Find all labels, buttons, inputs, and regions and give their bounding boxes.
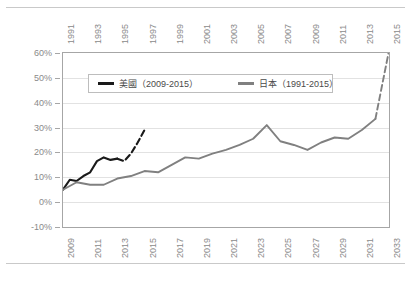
y-axis-tick-label: 20% bbox=[34, 148, 52, 157]
y-axis-tick-label: 0% bbox=[39, 198, 52, 207]
x-axis-tick-label: 2013 bbox=[121, 238, 130, 258]
x-axis-tick-label: 2023 bbox=[257, 238, 266, 258]
y-axis-tick-label: 40% bbox=[34, 98, 52, 107]
x-axis-tick-label: 2007 bbox=[284, 24, 293, 44]
x-axis-tick-label: 2019 bbox=[203, 238, 212, 258]
legend-label-japan: 日本（1991-2015） bbox=[259, 79, 338, 89]
x-axis-tick-label: 2001 bbox=[203, 24, 212, 44]
x-axis-tick-label: 2029 bbox=[339, 238, 348, 258]
y-axis-tick-label: 30% bbox=[34, 123, 52, 132]
y-axis-tick-mark bbox=[55, 177, 60, 178]
y-axis-tick-label: 10% bbox=[34, 173, 52, 182]
x-axis-tick-label: 1995 bbox=[121, 24, 130, 44]
legend-item-us: 美國（2009-2015） bbox=[98, 79, 198, 89]
x-axis-tick-label: 2021 bbox=[230, 238, 239, 258]
x-axis-tick-label: 2017 bbox=[176, 238, 185, 258]
x-axis-tick-label: 2033 bbox=[393, 238, 402, 258]
x-axis-tick-label: 2009 bbox=[67, 238, 76, 258]
x-axis-tick-label: 2005 bbox=[257, 24, 266, 44]
y-axis-tick-mark bbox=[55, 128, 60, 129]
y-axis-tick-mark bbox=[55, 152, 60, 153]
x-axis-tick-label: 1997 bbox=[149, 24, 158, 44]
series-line-japan-actual bbox=[63, 119, 375, 190]
bottom-x-axis: 2009201120132015201720192021202320252027… bbox=[0, 228, 411, 282]
y-axis-tick-mark bbox=[55, 53, 60, 54]
x-axis-tick-label: 2025 bbox=[284, 238, 293, 258]
x-axis-tick-label: 2013 bbox=[366, 24, 375, 44]
y-axis: 60%50%40%30%20%10%0%-10% bbox=[0, 52, 60, 228]
series-line-japan-projected bbox=[375, 53, 389, 119]
x-axis-tick-label: 2011 bbox=[94, 239, 103, 258]
y-axis-tick-mark bbox=[55, 202, 60, 203]
y-axis-tick-label: 60% bbox=[34, 49, 52, 58]
x-axis-tick-label: 1993 bbox=[94, 24, 103, 44]
y-axis-tick-mark bbox=[55, 78, 60, 79]
x-axis-tick-label: 2031 bbox=[366, 238, 375, 258]
x-axis-tick-label: 2015 bbox=[149, 238, 158, 258]
x-axis-tick-label: 2011 bbox=[339, 25, 348, 44]
chart-figure: 1991199319951997199920012003200520072009… bbox=[0, 0, 411, 282]
y-axis-tick-mark bbox=[55, 103, 60, 104]
legend-item-japan: 日本（1991-2015） bbox=[238, 79, 338, 89]
x-axis-tick-label: 2015 bbox=[393, 24, 402, 44]
x-axis-tick-label: 2027 bbox=[312, 238, 321, 258]
x-axis-tick-label: 1999 bbox=[176, 24, 185, 44]
series-line-us-projected bbox=[117, 130, 144, 161]
chart-legend: 美國（2009-2015） 日本（1991-2015） bbox=[88, 74, 333, 93]
legend-swatch-japan-icon bbox=[238, 82, 254, 85]
legend-label-us: 美國（2009-2015） bbox=[119, 79, 198, 89]
x-axis-tick-label: 1991 bbox=[67, 24, 76, 44]
x-axis-tick-label: 2003 bbox=[230, 24, 239, 44]
legend-swatch-us-icon bbox=[98, 82, 114, 85]
top-x-axis: 1991199319951997199920012003200520072009… bbox=[0, 0, 411, 52]
y-axis-tick-label: 50% bbox=[34, 73, 52, 82]
x-axis-tick-label: 2009 bbox=[312, 24, 321, 44]
